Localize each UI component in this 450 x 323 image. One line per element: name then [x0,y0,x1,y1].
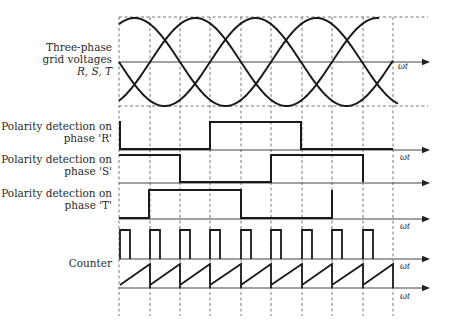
omega-t-axis-label: ωt [398,60,408,71]
polarity-s-label-line1: Polarity detection on [1,153,112,165]
clock-pulse [150,230,160,259]
clock-pulse [332,230,342,259]
time-axes [119,59,430,291]
clock-pulse [180,230,190,259]
arrow-head-icon [422,59,430,65]
polarity-r-label-line1: Polarity detection on [1,120,112,132]
voltages-label-line3: R, S, T [42,65,112,77]
voltages-label: Three-phase grid voltages R, S, T [42,41,112,77]
voltages-label-line1: Three-phase [42,41,112,53]
arrow-head-icon [422,285,430,291]
omega-t-axis-label: ωt [400,220,410,231]
omega-t-axis-label: ωt [400,260,410,271]
clock-pulse [120,230,130,259]
counter-label: Counter [69,257,112,269]
polarity-t-label: Polarity detection on phase 'T' [1,187,112,211]
clock-pulse [302,230,312,259]
omega-t-axis-label: ωt [400,151,410,162]
arrow-head-icon [422,256,430,262]
polarity-s-label: Polarity detection on phase 'S' [1,153,112,177]
polarity-s-label-line2: phase 'S' [1,165,112,177]
polarity-r-label-line2: phase 'R' [1,132,112,144]
arrow-head-icon [422,147,430,153]
clock-pulse [363,230,373,259]
clock-pulse [271,230,281,259]
voltages-label-line2: grid voltages [42,53,112,65]
polarity-t-label-line1: Polarity detection on [1,187,112,199]
polarity-r-waveform [119,122,393,149]
clock-pulse [241,230,251,259]
omega-t-axis-label: ωt [400,290,410,301]
polarity-r-label: Polarity detection on phase 'R' [1,120,112,144]
arrow-head-icon [422,180,430,186]
counter-sawtooth [120,264,393,288]
polarity-t-label-line2: phase 'T' [1,199,112,211]
polarity-detection-waveforms [119,122,393,218]
polarity-t-waveform [119,190,332,218]
clock-pulse [210,230,220,259]
arrow-head-icon [422,216,430,222]
